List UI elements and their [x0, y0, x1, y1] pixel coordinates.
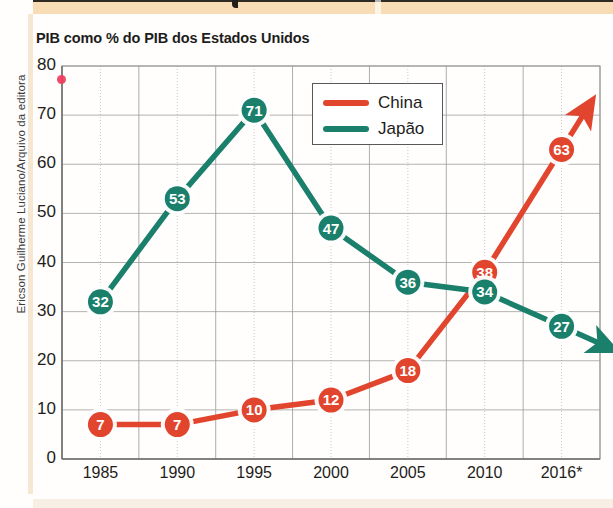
x-axis-tick: 2016*: [517, 464, 607, 482]
y-axis-tick: 70: [4, 104, 56, 124]
y-axis-tick: 50: [4, 202, 56, 222]
svg-text:12: 12: [323, 391, 340, 408]
chart-legend: China Japão: [312, 83, 443, 145]
legend-swatch-japao: [323, 126, 369, 132]
legend-item-japao: Japão: [323, 119, 424, 139]
svg-text:32: 32: [92, 293, 109, 310]
legend-item-china: China: [323, 93, 422, 113]
svg-text:63: 63: [553, 141, 570, 158]
y-axis-tick: 30: [4, 301, 56, 321]
svg-text:7: 7: [96, 416, 104, 433]
legend-label-china: China: [378, 93, 422, 113]
legend-swatch-china: [323, 100, 369, 106]
y-axis-tick: 20: [4, 350, 56, 370]
svg-text:36: 36: [400, 274, 417, 291]
y-axis-tick: 40: [4, 252, 56, 272]
line-chart-svg: 77101218386332537147363427: [0, 0, 613, 508]
legend-label-japao: Japão: [378, 119, 424, 139]
ink-smudge-dot: [57, 75, 66, 84]
page-background: Ericson Guilherme Luciano/Arquivo da edi…: [0, 0, 613, 508]
y-axis-tick: 10: [4, 399, 56, 419]
svg-text:53: 53: [169, 190, 186, 207]
svg-text:18: 18: [400, 362, 417, 379]
svg-text:71: 71: [246, 102, 263, 119]
svg-text:34: 34: [476, 283, 493, 300]
chart-plot-area: 77101218386332537147363427: [0, 0, 613, 508]
y-axis-labels: 01020304050607080: [0, 0, 56, 508]
y-axis-tick: 80: [4, 55, 56, 75]
svg-text:47: 47: [323, 220, 340, 237]
y-axis-tick: 60: [4, 153, 56, 173]
svg-text:10: 10: [246, 401, 263, 418]
svg-text:7: 7: [173, 416, 181, 433]
chart-series-lines: [100, 110, 599, 424]
svg-text:27: 27: [553, 318, 570, 335]
y-axis-tick: 0: [4, 448, 56, 468]
